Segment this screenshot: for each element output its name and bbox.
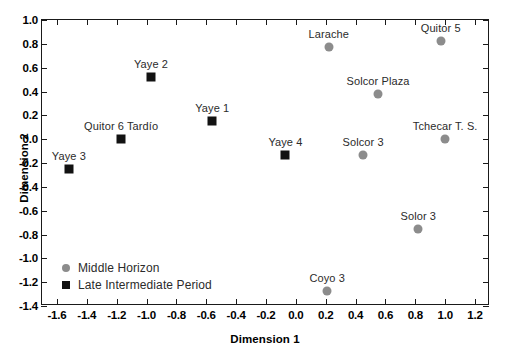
y-axis-tick-label: 0.4	[23, 86, 38, 98]
x-axis-tick-top	[326, 19, 327, 25]
y-axis-tick-right	[483, 163, 489, 164]
y-axis-tick-right	[483, 115, 489, 116]
data-point-label: Solor 3	[401, 209, 437, 221]
data-point[interactable]: Coyo 3	[323, 286, 332, 295]
square-icon	[62, 281, 70, 289]
square-marker-icon	[147, 73, 156, 82]
y-axis-tick-right	[483, 68, 489, 69]
legend-item[interactable]: Middle Horizon	[59, 259, 212, 276]
data-point-label: Yaye 1	[195, 102, 229, 114]
x-axis-tick	[176, 299, 177, 305]
x-axis-tick	[475, 299, 476, 305]
legend-swatch	[59, 264, 73, 272]
data-point[interactable]: Quitor 5	[436, 37, 445, 46]
y-axis-tick-label: 1.0	[23, 14, 38, 26]
x-axis-tick-top	[117, 19, 118, 25]
circle-marker-icon	[374, 89, 383, 98]
x-axis-tick-label: 1.0	[437, 309, 452, 321]
square-marker-icon	[64, 164, 73, 173]
square-marker-icon	[208, 117, 217, 126]
x-axis-tick-label: 0.8	[408, 309, 423, 321]
x-axis-tick-label: 0.0	[288, 309, 303, 321]
x-axis-tick	[415, 299, 416, 305]
x-axis-tick-label: -1.4	[77, 309, 96, 321]
data-point[interactable]: Solor 3	[414, 224, 423, 233]
y-axis-tick	[41, 187, 47, 188]
x-axis-tick	[266, 299, 267, 305]
circle-marker-icon	[436, 37, 445, 46]
y-axis-tick	[41, 115, 47, 116]
y-axis-tick-right	[483, 92, 489, 93]
x-axis-tick	[296, 299, 297, 305]
x-axis-tick	[445, 299, 446, 305]
data-point-label: Solcor Plaza	[347, 74, 410, 86]
x-axis-tick	[117, 299, 118, 305]
x-axis-tick-top	[236, 19, 237, 25]
scatter-plot-figure: -1.4-1.2-1.0-0.8-0.6-0.4-0.20.00.20.40.6…	[0, 0, 509, 364]
data-point[interactable]: Quitor 6 Tardío	[117, 135, 126, 144]
legend-swatch	[59, 281, 73, 289]
y-axis-tick-right	[483, 306, 489, 307]
x-axis-tick-top	[147, 19, 148, 25]
data-point[interactable]: Yaye 1	[208, 117, 217, 126]
x-axis-tick	[147, 299, 148, 305]
x-axis-tick-label: 1.2	[467, 309, 482, 321]
circle-marker-icon	[323, 286, 332, 295]
circle-marker-icon	[324, 43, 333, 52]
data-point[interactable]: Larache	[324, 43, 333, 52]
y-axis-tick-label: -1.4	[19, 300, 38, 312]
data-point[interactable]: Yaye 2	[147, 73, 156, 82]
circle-marker-icon	[414, 224, 423, 233]
data-point[interactable]: Yaye 4	[281, 150, 290, 159]
legend-item[interactable]: Late Intermediate Period	[59, 276, 212, 293]
y-axis-tick	[41, 92, 47, 93]
x-axis-tick	[326, 299, 327, 305]
square-marker-icon	[281, 150, 290, 159]
data-point-label: Coyo 3	[309, 271, 344, 283]
y-axis-tick-right	[483, 139, 489, 140]
x-axis-tick-top	[475, 19, 476, 25]
y-axis-tick-right	[483, 282, 489, 283]
x-axis-tick	[87, 299, 88, 305]
x-axis-tick	[206, 299, 207, 305]
legend-label: Middle Horizon	[78, 261, 159, 275]
y-axis-tick	[41, 20, 47, 21]
data-point[interactable]: Yaye 3	[64, 164, 73, 173]
x-axis-tick-label: -1.0	[137, 309, 156, 321]
x-axis-tick-top	[176, 19, 177, 25]
x-axis-tick-top	[57, 19, 58, 25]
y-axis-tick-label: 0.8	[23, 38, 38, 50]
chart-legend: Middle HorizonLate Intermediate Period	[59, 259, 212, 293]
y-axis-tick-label: 0.6	[23, 62, 38, 74]
x-axis-tick	[385, 299, 386, 305]
x-axis-tick-top	[87, 19, 88, 25]
y-axis-tick	[41, 68, 47, 69]
y-axis-title: Dimension 2	[18, 108, 30, 228]
x-axis-tick-label: -0.6	[197, 309, 216, 321]
y-axis-tick-right	[483, 20, 489, 21]
y-axis-tick	[41, 139, 47, 140]
x-axis-tick	[57, 299, 58, 305]
data-point-label: Yaye 4	[268, 135, 302, 147]
y-axis-tick-label: -1.0	[19, 252, 38, 264]
square-marker-icon	[117, 135, 126, 144]
y-axis-tick-label: -1.2	[19, 276, 38, 288]
y-axis-tick-right	[483, 44, 489, 45]
circle-marker-icon	[359, 150, 368, 159]
data-point[interactable]: Tchecar T. S.	[441, 135, 450, 144]
data-point-label: Yaye 2	[134, 58, 168, 70]
x-axis-tick-top	[206, 19, 207, 25]
y-axis-tick	[41, 163, 47, 164]
x-axis-tick	[356, 299, 357, 305]
x-axis-tick-label: -1.2	[107, 309, 126, 321]
y-axis-tick-label: -0.8	[19, 229, 38, 241]
data-point-label: Yaye 3	[52, 149, 86, 161]
y-axis-tick	[41, 282, 47, 283]
x-axis-tick-label: -1.6	[47, 309, 66, 321]
data-point[interactable]: Solcor Plaza	[374, 89, 383, 98]
x-axis-tick-top	[385, 19, 386, 25]
data-point[interactable]: Solcor 3	[359, 150, 368, 159]
x-axis-tick-top	[296, 19, 297, 25]
y-axis-tick-right	[483, 258, 489, 259]
y-axis-tick-right	[483, 235, 489, 236]
